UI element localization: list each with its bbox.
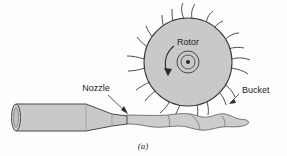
bucket-icon [231, 68, 248, 74]
bucket-icon [127, 56, 144, 59]
bucket-icon [232, 58, 250, 60]
turbine-diagram-canvas: Rotor Nozzle Bucket (a) [0, 0, 287, 156]
bucket-label: Bucket [242, 85, 270, 95]
rotor-label: Rotor [177, 37, 199, 47]
bucket-icon [182, 3, 184, 19]
water-jet-group [126, 114, 249, 131]
bucket-icon [136, 82, 150, 90]
nozzle-leader-arrowhead [121, 106, 128, 114]
bucket-icon [224, 84, 235, 97]
nozzle-body [16, 104, 127, 131]
water-splash-shape [126, 114, 249, 131]
nozzle-inlet-bore [14, 108, 19, 128]
bucket-icon [192, 4, 195, 19]
nozzle-assembly [12, 104, 128, 131]
nozzle-label: Nozzle [82, 83, 110, 93]
rotor-wheel: Rotor [144, 18, 232, 106]
bucket-leader-arrowhead [229, 99, 236, 104]
bucket-icon [160, 101, 170, 113]
pelton-turbine-figure: Rotor Nozzle Bucket (a) [0, 0, 287, 156]
bucket-icon [128, 68, 145, 71]
figure-caption: (a) [138, 141, 149, 151]
rotor-shaft-center-dot [186, 60, 190, 64]
